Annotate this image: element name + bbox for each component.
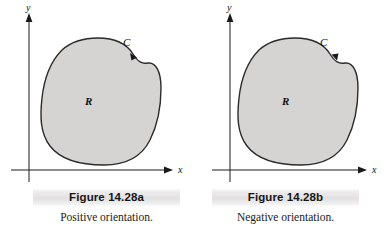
y-axis-label-a: y [25,2,31,13]
x-axis-a [11,167,173,174]
caption-subtitle-b: Negative orientation. [212,208,359,226]
figure-b-graphic: y x R C [192,0,385,186]
caption-bar-b: Figure 14.28b [212,188,359,207]
y-axis-a [26,13,33,182]
caption-title-a: Figure 14.28a [33,188,180,207]
figure-a-graphic: y x R C [0,0,193,186]
curve-label-a: C [123,36,131,48]
caption-bar-a: Figure 14.28a [33,188,180,207]
y-axis-label-b: y [226,2,232,13]
figure-page: y x R C Figure 14.28a Positive orientati… [0,0,385,234]
figure-panel-a: y x R C Figure 14.28a Positive orientati… [0,0,193,234]
region-boundary-curve-b [238,38,358,165]
caption-title-b: Figure 14.28b [212,188,359,207]
figure-panel-b: y x R C Figure 14.28b Negative orientati… [192,0,385,234]
region-label-b: R [281,95,289,107]
region-boundary-curve-a [41,38,161,165]
x-axis-label-b: x [371,164,377,175]
x-axis-label-a: x [177,164,183,175]
y-axis-b [227,13,234,182]
curve-label-b: C [320,36,328,48]
region-label-a: R [84,95,92,107]
x-axis-b [212,167,367,174]
caption-subtitle-a: Positive orientation. [33,208,180,226]
